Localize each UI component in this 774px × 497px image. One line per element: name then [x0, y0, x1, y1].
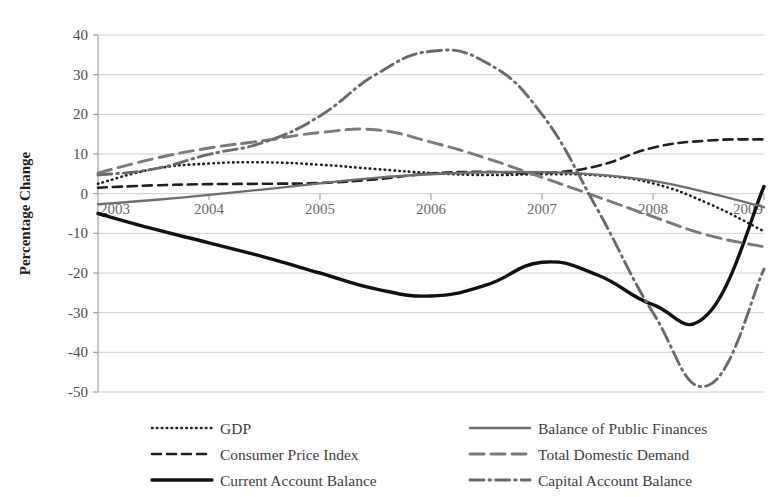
- y-axis-tick-label: -30: [68, 305, 88, 321]
- legend-label-capital-account-balance: Capital Account Balance: [538, 472, 692, 489]
- line-chart-figure: 403020100-10-20-30-40-50 200320042005200…: [0, 0, 774, 497]
- y-axis-tick-label: 10: [73, 146, 88, 162]
- x-axis-tick-labels: 2003200420052006200720082009: [100, 201, 763, 217]
- y-axis-title-group: Percentage Change: [17, 151, 33, 275]
- legend: GDPConsumer Price IndexCurrent Account B…: [152, 420, 707, 489]
- series-line-capital-account-balance: [98, 50, 764, 387]
- series-line-total-domestic-demand: [98, 129, 764, 247]
- y-axis-tick-labels: 403020100-10-20-30-40-50: [68, 27, 88, 400]
- y-axis-tick-label: -20: [68, 265, 88, 281]
- x-axis-tick-label: 2007: [527, 201, 558, 217]
- data-series-group: [98, 50, 764, 387]
- legend-label-current-account-balance: Current Account Balance: [220, 472, 377, 489]
- y-axis-tick-label: -10: [68, 225, 88, 241]
- x-axis-tick-label: 2004: [194, 201, 225, 217]
- y-axis-tick-label: -50: [68, 384, 88, 400]
- x-axis-tick-label: 2008: [638, 201, 668, 217]
- legend-label-gdp: GDP: [220, 420, 251, 437]
- y-axis-tick-label: 20: [73, 106, 88, 122]
- y-axis-title: Percentage Change: [17, 151, 33, 275]
- legend-label-total-domestic-demand: Total Domestic Demand: [538, 446, 690, 463]
- x-axis-tick-label: 2006: [416, 201, 447, 217]
- x-axis-tick-label: 2005: [305, 201, 335, 217]
- y-axis-tick-label: 40: [73, 27, 88, 43]
- legend-label-consumer-price-index: Consumer Price Index: [220, 446, 359, 463]
- y-axis-tick-label: -40: [68, 344, 88, 360]
- y-axis-tick-label: 30: [73, 67, 88, 83]
- y-axis-tick-label: 0: [81, 186, 89, 202]
- chart-container: 403020100-10-20-30-40-50 200320042005200…: [0, 0, 774, 497]
- legend-label-balance-of-public-finances: Balance of Public Finances: [538, 420, 707, 437]
